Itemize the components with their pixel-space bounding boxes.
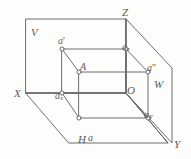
point-label-A-base: A	[80, 61, 86, 72]
marker-point-a-prime	[60, 47, 64, 51]
inner-box-edge-ax-to-a	[62, 93, 79, 118]
inner-box-front-face	[62, 49, 126, 93]
plane-label-v: V	[31, 27, 38, 38]
point-label-a: a	[88, 133, 93, 143]
point-label-ax: ax	[55, 91, 63, 102]
plane-label-h: H	[78, 134, 86, 145]
point-label-a-double-prime: a"	[147, 63, 156, 73]
inner-box-rear-face	[79, 72, 148, 118]
point-label-ax-sub: x	[60, 94, 63, 101]
point-label-az: az	[122, 42, 130, 53]
plane-label-w: W	[154, 79, 163, 90]
point-label-a-prime-mark: '	[63, 35, 65, 46]
projection-diagram: V H W X Y Z O A a' a a" ax az aY	[0, 0, 191, 159]
marker-point-a	[77, 116, 81, 120]
point-label-a-base: a	[88, 132, 93, 143]
axis-label-y: Y	[174, 139, 180, 150]
point-label-A: A	[80, 62, 86, 72]
point-label-a-prime: a'	[58, 36, 65, 46]
point-label-aY: aY	[144, 110, 153, 121]
v-plane-outline	[26, 19, 126, 93]
axis-label-x: X	[14, 88, 21, 99]
w-plane-outline	[126, 19, 172, 143]
axis-label-z: Z	[122, 7, 128, 18]
inner-box-edge-a-prime-to-A	[62, 49, 79, 72]
point-label-a-double-prime-mark: "	[152, 62, 156, 73]
point-label-aY-sub: Y	[149, 113, 153, 120]
origin-label: O	[127, 85, 135, 96]
point-label-az-sub: z	[127, 45, 130, 52]
